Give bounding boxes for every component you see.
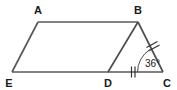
figure-edges bbox=[12, 22, 163, 72]
angle-label-c: 36° bbox=[145, 58, 160, 69]
figure-canvas: 36° A B C D E bbox=[0, 0, 177, 90]
vertex-labels: A B C D E bbox=[5, 4, 171, 89]
edge-AE bbox=[12, 22, 38, 72]
geometry-diagram: 36° A B C D E bbox=[0, 0, 177, 90]
vertex-label-D: D bbox=[104, 77, 112, 89]
vertex-label-A: A bbox=[34, 4, 42, 16]
edge-BD bbox=[108, 22, 138, 72]
vertex-label-C: C bbox=[163, 77, 171, 89]
vertex-label-E: E bbox=[5, 77, 12, 89]
vertex-label-B: B bbox=[134, 4, 142, 16]
